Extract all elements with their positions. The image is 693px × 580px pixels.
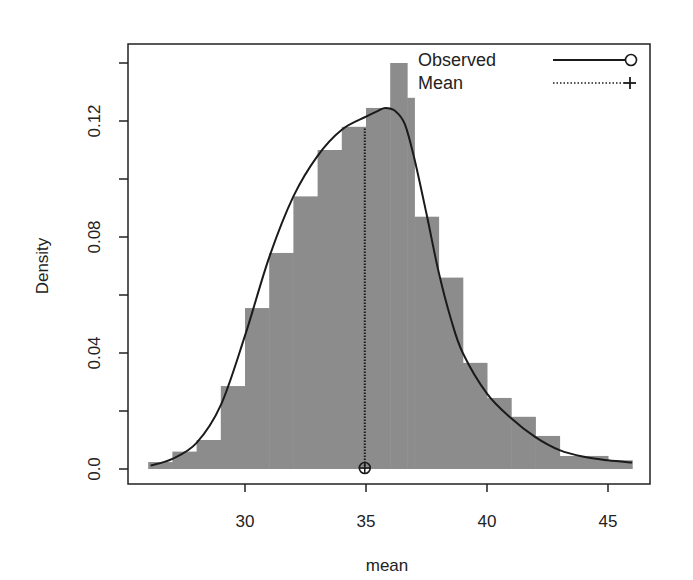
histogram-bar — [318, 150, 343, 469]
x-tick-label: 30 — [236, 512, 255, 531]
histogram-bar — [197, 440, 222, 469]
histogram-bars — [148, 63, 633, 469]
x-tick-label: 45 — [599, 512, 618, 531]
y-tick-label: 0.08 — [85, 220, 104, 253]
legend-label-mean: Mean — [418, 73, 463, 93]
legend-label-observed: Observed — [418, 50, 496, 70]
histogram-bar — [293, 196, 318, 469]
histogram-bar — [511, 417, 536, 469]
histogram-bar — [342, 127, 367, 469]
y-axis: 0.00.040.080.12 — [85, 63, 128, 481]
histogram-bar — [535, 436, 560, 469]
y-axis-title: Density — [33, 237, 52, 294]
y-tick-label: 0.0 — [85, 457, 104, 481]
plus-marker-icon — [624, 77, 636, 89]
y-tick-label: 0.04 — [85, 336, 104, 369]
density-histogram-chart: 30354045 0.00.040.080.12 mean Density Ob… — [0, 0, 693, 580]
legend: Observed Mean — [418, 50, 637, 93]
y-tick-label: 0.12 — [85, 104, 104, 137]
histogram-bar — [172, 452, 197, 469]
histogram-bar — [560, 456, 609, 469]
histogram-bar — [366, 108, 391, 469]
x-axis: 30354045 — [236, 484, 618, 531]
circle-marker-icon — [626, 55, 637, 66]
x-tick-label: 40 — [478, 512, 497, 531]
histogram-bar — [245, 308, 270, 469]
histogram-bar — [269, 253, 294, 469]
histogram-bar — [439, 278, 464, 469]
histogram-bar — [463, 363, 488, 469]
x-tick-label: 35 — [357, 512, 376, 531]
x-axis-title: mean — [366, 556, 409, 575]
mean-point-marker — [359, 463, 370, 474]
